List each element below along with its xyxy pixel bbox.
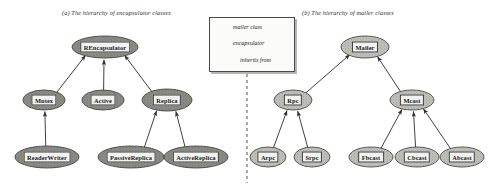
inheritance-arrow	[125, 55, 153, 93]
inheritance-arrow	[56, 55, 86, 93]
legend-label-encapsulator: encapsulator	[233, 40, 264, 46]
legend-label-inherits-from: inherits from	[240, 57, 271, 63]
class-node-label-replica: Replica	[153, 95, 181, 106]
class-node-label-active: Active	[91, 95, 116, 106]
inheritance-arrow	[377, 56, 401, 92]
class-node-label-fbcast: Fbcast	[358, 152, 384, 163]
inheritance-arrow	[144, 111, 156, 148]
inheritance-arrow	[273, 111, 287, 148]
class-node-label-abcast: Abcast	[449, 152, 475, 163]
inheritance-arrow	[381, 109, 402, 149]
class-hierarchy-figure: (a) The hierarchy of encapsulator classe…	[0, 0, 490, 187]
class-node-label-srpc: Srpc	[302, 152, 322, 163]
inheritance-arrow	[176, 111, 185, 147]
class-node-label-readerwriter: ReaderWriter	[24, 152, 71, 163]
class-node-label-mailer: Mailer	[352, 42, 378, 53]
class-node-label-mcast: Mcast	[400, 95, 424, 106]
class-node-label-rencapsulator: REncapsulator	[80, 42, 130, 53]
class-node-label-cbcast: Cbcast	[404, 152, 430, 163]
class-node-label-mutex: Mutex	[31, 95, 56, 106]
legend-label-mailer-class: mailer class	[233, 24, 262, 30]
class-node-label-rpc: Rpc	[284, 95, 302, 106]
inheritance-arrow	[298, 111, 308, 148]
inheritance-arrow	[304, 54, 349, 94]
class-node-label-passivereplica: PassiveReplica	[107, 152, 156, 163]
caption-panel-a: (a) The hierarchy of encapsulator classe…	[62, 9, 171, 16]
class-node-label-activereplica: ActiveReplica	[173, 152, 219, 163]
inheritance-arrow	[423, 109, 451, 150]
caption-panel-b: (b) The hierarchy of mailer classes	[302, 9, 394, 16]
inheritance-arrow	[413, 111, 415, 147]
inheritance-arrow	[45, 111, 46, 146]
class-node-label-arpc: Arpc	[257, 152, 278, 163]
